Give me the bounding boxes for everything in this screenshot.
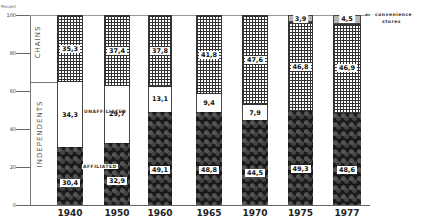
value-label: 30,4 — [60, 179, 80, 187]
y-axis — [30, 15, 31, 205]
y-tick-100: 100 — [2, 12, 16, 18]
independents-group-label: INDEPENDENTS — [36, 101, 44, 168]
x-tick-1965: 1965 — [189, 208, 229, 218]
chains-segment: 37,4 — [104, 15, 130, 86]
y-tick-0: 0 — [2, 202, 16, 208]
bar-1970: 44,57,947,6 — [242, 15, 268, 205]
unaffiliated-segment: 34,3 — [57, 82, 83, 147]
value-label: 48,6 — [337, 166, 357, 174]
y-tick-20: 20 — [2, 164, 16, 170]
value-label: 9,4 — [201, 99, 217, 107]
value-label: 35,3 — [60, 45, 80, 53]
bar-1960: 49,113,137,8 — [148, 15, 172, 205]
value-label: 49,1 — [150, 166, 170, 174]
value-label: 47,6 — [245, 56, 265, 64]
y-tick-mark — [16, 53, 30, 54]
y-tick-40: 40 — [2, 126, 16, 132]
bar-1940: 30,434,335,3 — [57, 15, 83, 205]
x-axis — [30, 205, 370, 206]
y-tick-mark — [16, 15, 30, 16]
affiliated-segment: 48,6 — [333, 113, 361, 205]
unaffiliated-segment: 7,9 — [242, 105, 268, 120]
chains-segment: 46,8 — [288, 22, 313, 111]
chains-segment: 35,3 — [57, 15, 83, 82]
affiliated-segment: 44,5 — [242, 120, 268, 205]
convenience-annotation-line1: convenience — [375, 12, 412, 17]
value-label: 7,9 — [247, 109, 263, 117]
unaffiliated-annotation: UNAFFILIATED — [84, 109, 126, 114]
chains-segment: 41,8 — [196, 15, 222, 94]
x-tick-1960: 1960 — [140, 208, 180, 218]
affiliated-segment: 49,3 — [288, 111, 313, 205]
affiliated-segment: 30,4 — [57, 147, 83, 205]
convenience-segment: 4,5 — [333, 15, 361, 24]
value-label: 46,9 — [337, 64, 357, 72]
value-label: 49,3 — [290, 165, 310, 173]
convenience-annotation-line2: stores — [382, 19, 401, 24]
value-label: 32,9 — [107, 177, 127, 185]
value-label: 41,8 — [199, 51, 219, 59]
value-label: 44,5 — [245, 169, 265, 177]
affiliated-annotation: AFFILIATED — [82, 164, 118, 169]
affiliated-segment: 49,1 — [148, 112, 172, 205]
bar-1975: 49,346,83,9 — [288, 15, 313, 205]
group-divider — [31, 82, 57, 83]
value-label: 13,1 — [150, 95, 170, 103]
value-label: 46,8 — [290, 63, 310, 71]
convenience-segment: 3,9 — [288, 15, 313, 22]
x-tick-1975: 1975 — [281, 208, 321, 218]
y-tick-60: 60 — [2, 88, 16, 94]
value-label: 3,9 — [293, 15, 309, 23]
x-tick-1940: 1940 — [50, 208, 90, 218]
value-label: 48,8 — [199, 166, 219, 174]
y-axis-unit-label: Percent — [1, 4, 16, 9]
unaffiliated-segment: 9,4 — [196, 94, 222, 112]
bar-1977: 48,646,94,5 — [333, 15, 361, 205]
value-label: 34,3 — [60, 111, 80, 119]
value-label: 4,5 — [339, 15, 355, 23]
value-label: 37,8 — [150, 47, 170, 55]
x-tick-1970: 1970 — [235, 208, 275, 218]
unaffiliated-segment: 13,1 — [148, 87, 172, 112]
arrow-icon: ← — [365, 11, 371, 19]
y-tick-mark — [16, 129, 30, 130]
bar-1965: 48,89,441,8 — [196, 15, 222, 205]
y-tick-80: 80 — [2, 50, 16, 56]
unaffiliated-segment: 29,7 — [104, 86, 130, 142]
chains-group-label: CHAINS — [34, 26, 42, 59]
y-tick-mark — [16, 205, 30, 206]
chains-segment: 46,9 — [333, 24, 361, 113]
affiliated-segment: 32,9 — [104, 143, 130, 206]
value-label: 37,4 — [107, 47, 127, 55]
y-tick-mark — [16, 91, 30, 92]
chains-segment: 37,8 — [148, 15, 172, 87]
x-tick-1977: 1977 — [327, 208, 367, 218]
chains-segment: 47,6 — [242, 15, 268, 105]
affiliated-segment: 48,8 — [196, 112, 222, 205]
x-tick-1950: 1950 — [97, 208, 137, 218]
y-tick-mark — [16, 167, 30, 168]
